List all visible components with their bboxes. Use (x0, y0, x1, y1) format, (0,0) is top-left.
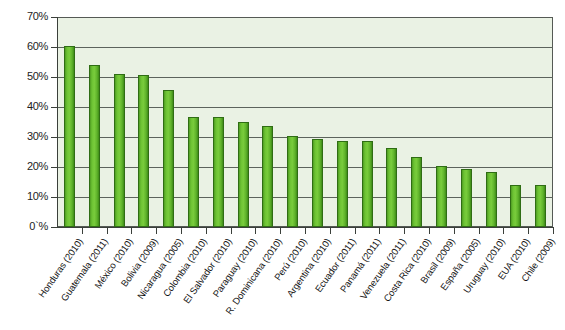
x-axis-tick (280, 228, 281, 234)
bar (188, 117, 199, 227)
y-axis-label: 10% (2, 190, 48, 202)
y-axis-label: 0`% (2, 220, 48, 232)
bar (312, 139, 323, 227)
x-axis-tick (355, 228, 356, 234)
y-axis-line (57, 17, 58, 228)
x-axis-tick (107, 228, 108, 234)
bar (386, 148, 397, 227)
x-axis-tick (305, 228, 306, 234)
y-axis-tick (51, 47, 57, 48)
y-axis-label: 30% (2, 130, 48, 142)
bar (114, 74, 125, 227)
x-axis-tick (454, 228, 455, 234)
x-axis-tick (429, 228, 430, 234)
y-axis-tick (51, 107, 57, 108)
x-axis-tick (255, 228, 256, 234)
x-axis-tick (479, 228, 480, 234)
x-axis-tick (181, 228, 182, 234)
y-axis-label: 20% (2, 160, 48, 172)
bar (163, 90, 174, 227)
x-axis-tick (330, 228, 331, 234)
x-axis-tick (231, 228, 232, 234)
x-axis-tick (404, 228, 405, 234)
y-axis-label: 70% (2, 10, 48, 22)
x-axis-tick (131, 228, 132, 234)
bar (287, 136, 298, 228)
y-axis-tick (51, 197, 57, 198)
bar (89, 65, 100, 227)
x-axis-tick (503, 228, 504, 234)
bar (486, 172, 497, 228)
bar (262, 126, 273, 227)
y-axis-label: 50% (2, 70, 48, 82)
bar (535, 185, 546, 227)
bar (64, 46, 75, 227)
bar-chart: 0`%10%20%30%40%50%60%70% Honduras (2010)… (0, 0, 565, 330)
x-axis-tick (528, 228, 529, 234)
x-axis-tick (553, 228, 554, 234)
x-axis-tick (206, 228, 207, 234)
bar (510, 185, 521, 227)
bars-layer (57, 17, 553, 227)
bar (213, 117, 224, 227)
x-axis-tick (82, 228, 83, 234)
x-axis-tick (156, 228, 157, 234)
bar (138, 75, 149, 227)
y-axis-label: 60% (2, 40, 48, 52)
x-axis-tick (379, 228, 380, 234)
bar (411, 157, 422, 228)
y-axis-tick (51, 167, 57, 168)
y-axis-label: 40% (2, 100, 48, 112)
bar (238, 122, 249, 227)
bar (337, 141, 348, 227)
bar (461, 169, 472, 227)
y-axis-tick (51, 77, 57, 78)
bar (436, 166, 447, 228)
y-axis-tick (51, 17, 57, 18)
y-axis-tick (51, 137, 57, 138)
bar (362, 141, 373, 227)
